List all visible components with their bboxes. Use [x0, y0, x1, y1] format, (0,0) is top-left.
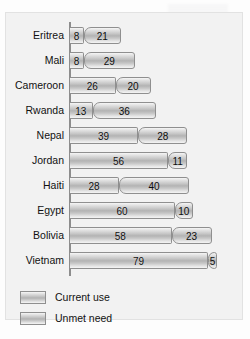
bar-segment-current-use: 26 [70, 77, 116, 94]
bar-segment-unmet-need: 5 [208, 252, 217, 269]
bar-track: 6010 [70, 202, 193, 219]
bar-row: Bolivia5823 [0, 227, 250, 244]
category-label-eritrea: Eritrea [0, 27, 64, 44]
bar-segment-current-use: 56 [70, 152, 168, 169]
bar-row: Jordan5611 [0, 152, 250, 169]
bar-segment-current-use: 28 [70, 177, 119, 194]
bar-value-label: 39 [70, 128, 137, 145]
legend-swatch-unmet-need [20, 312, 46, 325]
bar-segment-unmet-need: 23 [172, 227, 212, 244]
bar-value-label: 36 [94, 103, 155, 120]
legend-label-current-use: Current use [55, 291, 110, 303]
bar-track: 1336 [70, 102, 156, 119]
bar-value-label: 20 [117, 78, 150, 95]
category-label-vietnam: Vietnam [0, 252, 64, 269]
bar-row: Egypt6010 [0, 202, 250, 219]
category-label-mali: Mali [0, 52, 64, 69]
category-label-rwanda: Rwanda [0, 102, 64, 119]
bar-segment-current-use: 8 [70, 27, 84, 44]
bar-track: 3928 [70, 127, 187, 144]
bar-track: 821 [70, 27, 121, 44]
bar-track: 2620 [70, 77, 151, 94]
bar-value-label: 28 [70, 178, 118, 195]
bar-segment-unmet-need: 29 [84, 52, 135, 69]
bar-row: Eritrea821 [0, 27, 250, 44]
bar-segment-unmet-need: 36 [93, 102, 156, 119]
bar-value-label: 13 [70, 103, 92, 120]
bar-row: Rwanda1336 [0, 102, 250, 119]
category-label-jordan: Jordan [0, 152, 64, 169]
bar-segment-unmet-need: 20 [116, 77, 151, 94]
legend-item-unmet-need: Unmet need [20, 309, 112, 327]
category-label-egypt: Egypt [0, 202, 64, 219]
category-label-cameroon: Cameroon [0, 77, 64, 94]
bar-row: Cameroon2620 [0, 77, 250, 94]
bar-track: 5611 [70, 152, 187, 169]
bar-segment-unmet-need: 40 [119, 177, 189, 194]
bar-value-label: 79 [70, 253, 207, 270]
bar-segment-unmet-need: 11 [168, 152, 187, 169]
bar-value-label: 5 [209, 253, 216, 270]
bar-track: 795 [70, 252, 217, 269]
bar-value-label: 56 [70, 153, 167, 170]
chart-legend: Current use Unmet need [20, 288, 112, 330]
bar-segment-current-use: 39 [70, 127, 138, 144]
bar-value-label: 28 [139, 128, 186, 145]
bar-value-label: 29 [85, 53, 134, 70]
bar-segment-current-use: 13 [70, 102, 93, 119]
bar-value-label: 8 [70, 28, 83, 45]
bar-value-label: 8 [70, 53, 83, 70]
category-label-bolivia: Bolivia [0, 227, 64, 244]
category-label-nepal: Nepal [0, 127, 64, 144]
bar-track: 5823 [70, 227, 212, 244]
legend-item-current-use: Current use [20, 288, 112, 306]
bar-value-label: 23 [173, 228, 211, 245]
bar-track: 829 [70, 52, 135, 69]
bar-value-label: 40 [120, 178, 188, 195]
bar-row: Vietnam795 [0, 252, 250, 269]
bar-value-label: 60 [70, 203, 174, 220]
bar-row: Nepal3928 [0, 127, 250, 144]
bar-segment-current-use: 60 [70, 202, 175, 219]
bar-value-label: 21 [85, 28, 120, 45]
legend-label-unmet-need: Unmet need [55, 312, 112, 324]
stacked-bar-chart: Eritrea821Mali829Cameroon2620Rwanda1336N… [0, 0, 250, 339]
legend-swatch-current-use [20, 291, 46, 304]
category-label-haiti: Haiti [0, 177, 64, 194]
bar-segment-unmet-need: 28 [138, 127, 187, 144]
bar-value-label: 58 [70, 228, 171, 245]
bar-value-label: 10 [176, 203, 192, 220]
bar-row: Haiti2840 [0, 177, 250, 194]
bar-segment-unmet-need: 21 [84, 27, 121, 44]
bar-segment-current-use: 8 [70, 52, 84, 69]
bar-row: Mali829 [0, 52, 250, 69]
bar-segment-unmet-need: 10 [175, 202, 193, 219]
bar-track: 2840 [70, 177, 189, 194]
bar-value-label: 26 [70, 78, 115, 95]
bar-value-label: 11 [169, 153, 186, 170]
bar-segment-current-use: 79 [70, 252, 208, 269]
bar-segment-current-use: 58 [70, 227, 172, 244]
